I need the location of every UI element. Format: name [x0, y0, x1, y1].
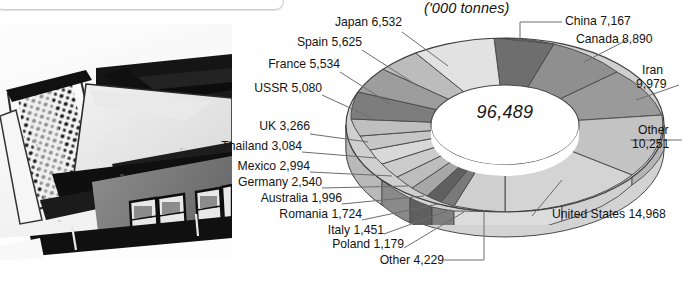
callout-other-bottom: Other 4,229	[342, 254, 444, 267]
callout-spain: Spain 5,625	[232, 36, 362, 49]
center-total-value: 96,489	[450, 102, 560, 123]
photograph-image	[0, 24, 232, 260]
callout-canada: Canada 8,890	[576, 33, 653, 46]
callout-ussr: USSR 5,080	[220, 82, 322, 95]
callout-romania: Romania 1,724	[252, 208, 362, 221]
photograph	[0, 24, 232, 260]
callout-other-value: 10,251	[632, 138, 669, 151]
callout-uk: UK 3,266	[220, 120, 310, 133]
callout-australia: Australia 1,996	[232, 192, 342, 205]
callout-china: China 7,167	[565, 15, 631, 28]
figure-page: ('000 tonnes)	[0, 0, 693, 284]
callout-united-states: United States 14,968	[552, 208, 666, 221]
callout-poland: Poland 1,179	[290, 238, 404, 251]
callout-france: France 5,534	[220, 58, 340, 71]
donut-hole	[431, 85, 579, 165]
callout-iran-value: 9,979	[636, 78, 667, 91]
callout-italy: Italy 1,451	[282, 224, 384, 237]
callout-japan: Japan 6,532	[240, 16, 402, 29]
callout-germany: Germany 2,540	[218, 176, 322, 189]
callout-thailand: Thailand 3,084	[210, 140, 302, 153]
callout-mexico: Mexico 2,994	[214, 160, 310, 173]
callout-other-name: Other	[638, 124, 668, 137]
callout-iran-name: Iran	[642, 64, 663, 77]
donut-chart: ('000 tonnes)	[232, 0, 693, 284]
